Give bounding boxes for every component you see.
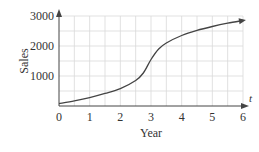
x-tick-label: 0 (56, 110, 62, 124)
y-axis-arrow-icon (56, 9, 62, 17)
y-axis-label: Sales (17, 48, 31, 74)
axes (56, 9, 249, 109)
x-axis-label: Year (140, 126, 162, 140)
x-tick-labels: 0123456 (56, 110, 246, 124)
y-tick-label: 2000 (30, 39, 54, 53)
x-axis-arrow-icon (241, 103, 249, 109)
grid-lines (59, 16, 243, 106)
sales-chart: 0123456 100020003000 t Year Sales (0, 0, 259, 152)
x-tick-label: 6 (240, 110, 246, 124)
x-tick-label: 2 (117, 110, 123, 124)
y-tick-labels: 100020003000 (30, 9, 54, 83)
curve-arrow-icon (239, 18, 246, 24)
x-tick-label: 1 (87, 110, 93, 124)
x-axis-variable: t (249, 92, 253, 104)
y-tick-label: 1000 (30, 69, 54, 83)
x-tick-label: 3 (148, 110, 154, 124)
x-tick-label: 5 (209, 110, 215, 124)
y-tick-label: 3000 (30, 9, 54, 23)
x-tick-label: 4 (179, 110, 185, 124)
